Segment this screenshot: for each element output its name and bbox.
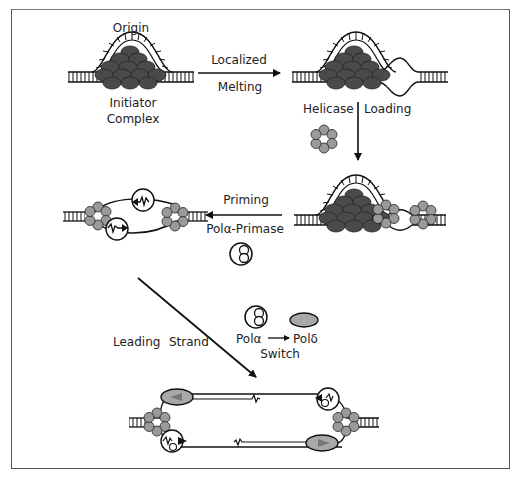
origin-label: Origin	[113, 21, 149, 35]
localized-label: Localized	[211, 53, 267, 67]
helicase-label: Helicase	[303, 102, 354, 116]
pol-delta-label: Polδ	[293, 332, 318, 346]
loading-label: Loading	[364, 102, 411, 116]
melting-label: Melting	[218, 80, 262, 94]
leading-strand-arrow	[138, 278, 256, 377]
helicase-loaded-origin	[294, 175, 446, 232]
complex-label: Complex	[107, 112, 160, 126]
initiator-label: Initiator	[110, 96, 157, 110]
priming-label: Priming	[223, 193, 269, 207]
mcm-helicase-ring	[311, 125, 337, 153]
melted-origin	[292, 32, 448, 96]
pol-alpha-primase-icon	[230, 243, 252, 265]
pol-delta-icon	[290, 313, 318, 327]
pol-alpha-label: Polα	[236, 332, 261, 346]
pol-alpha-icon	[245, 306, 267, 328]
primed-replication-forks	[63, 189, 208, 240]
origin-initiator-complex	[68, 32, 194, 89]
replication-diagram	[0, 0, 524, 482]
switch-label: Switch	[260, 347, 300, 361]
elongating-replication-forks	[129, 388, 379, 452]
leading-label: Leading	[113, 335, 160, 349]
pol-primase-label: Polα-Primase	[206, 222, 284, 236]
strand-label: Strand	[169, 335, 209, 349]
